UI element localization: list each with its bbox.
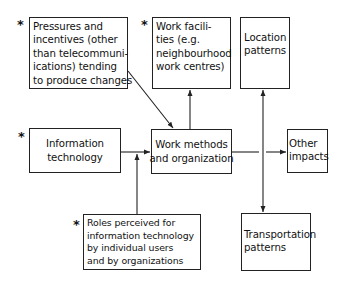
node-other-impacts: Other impacts — [287, 129, 328, 173]
node-text: and organization — [149, 152, 233, 165]
node-text: by individual users — [87, 242, 197, 255]
node-roles-perceived: Roles perceived for information technolo… — [83, 214, 201, 270]
node-text: incentives (other — [33, 33, 124, 46]
node-pressures-and-incentives: Pressures and incentives (other than tel… — [29, 17, 128, 89]
node-text: impacts — [289, 150, 326, 163]
node-text: Work methods — [155, 138, 228, 151]
marker-star-icon: * — [18, 130, 25, 143]
marker-star-icon: * — [141, 18, 148, 31]
node-work-methods-and-organization: Work methods and organization — [151, 129, 232, 174]
node-text: than telecommuni- — [33, 47, 124, 60]
node-text: neighbourhood — [156, 47, 227, 60]
node-text: patterns — [244, 44, 286, 57]
node-text: technology — [47, 151, 103, 164]
node-text: information technology — [87, 230, 197, 243]
node-text: Pressures and — [33, 20, 124, 33]
node-text: patterns — [244, 241, 309, 254]
node-location-patterns: Location patterns — [240, 17, 290, 89]
node-text: Roles perceived for — [87, 217, 197, 230]
marker-star-icon: * — [17, 18, 24, 31]
node-transportation-patterns: Transportation patterns — [241, 213, 311, 271]
node-text: Location — [244, 31, 286, 44]
node-text: Other — [289, 137, 326, 150]
node-text: ications) tending — [33, 60, 124, 73]
node-information-technology: Information technology — [29, 128, 121, 173]
node-text: ties (e.g. — [156, 33, 227, 46]
node-text: Information — [46, 137, 104, 150]
marker-star-icon: * — [73, 218, 80, 231]
node-text: and by organizations — [87, 255, 197, 268]
node-text: to produce changes — [33, 74, 124, 87]
node-text: work centres) — [156, 60, 227, 73]
node-text: Transportation — [244, 228, 309, 241]
node-work-facilities: Work facili- ties (e.g. neighbourhood wo… — [152, 17, 231, 89]
node-text: Work facili- — [156, 20, 227, 33]
